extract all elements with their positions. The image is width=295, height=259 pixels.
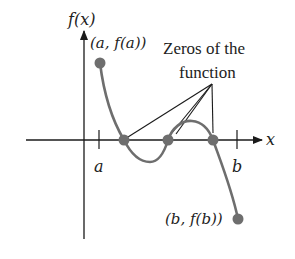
end-point-label: (b, f(b)) [165,210,223,228]
zero-point-2 [163,135,174,146]
start-point [95,58,106,69]
zero-point-1 [119,135,130,146]
end-point [233,214,244,225]
zero-point-3 [208,135,219,146]
start-point-label: (a, f(a)) [90,34,147,52]
y-axis-label: f(x) [67,10,95,29]
function-zeros-diagram: f(x) x a b (a, f(a)) (b, f(b)) Zeros of … [0,0,295,259]
tick-label-a: a [94,157,104,176]
annotation-line-1: Zeros of the [163,39,245,58]
tick-label-b: b [232,157,242,176]
zeros-callout-lines [128,84,213,137]
x-axis-label: x [266,130,275,149]
annotation-line-2: function [179,63,236,82]
